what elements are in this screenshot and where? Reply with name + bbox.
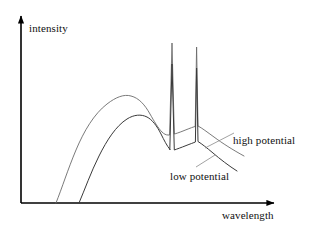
y-axis-label: intensity — [29, 22, 68, 34]
x-ray-spectrum-figure: intensity wavelength high potential low … — [0, 0, 310, 229]
x-axis-label: wavelength — [222, 209, 274, 221]
leader-line-high-potential — [205, 133, 234, 148]
curve-low-potential — [79, 64, 237, 203]
curve-label-high-potential: high potential — [233, 134, 295, 146]
curve-label-low-potential: low potential — [170, 170, 229, 182]
leader-line-low-potential — [196, 155, 215, 167]
spectrum-plot — [0, 0, 310, 229]
